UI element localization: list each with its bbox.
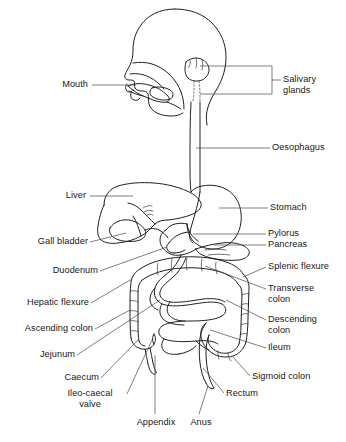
label-ileum: Ileum [268, 342, 328, 353]
head-profile-outline [125, 9, 226, 125]
label-rectum: Rectum [226, 388, 286, 399]
label-mouth: Mouth [4, 79, 88, 90]
label-jejunum: Jejunum [2, 349, 75, 360]
label-descending-colon: Descending colon [268, 314, 340, 335]
label-liver: Liver [4, 190, 86, 201]
gall-bladder-shape [109, 220, 168, 242]
label-gall-bladder: Gall bladder [2, 236, 88, 247]
label-anus: Anus [183, 417, 219, 428]
label-caecum: Caecum [2, 372, 99, 383]
transverse-colon-shape [140, 257, 243, 284]
rectum-anus-shape [199, 323, 214, 389]
label-sigmoid-colon: Sigmoid colon [252, 371, 340, 382]
liver-shape [98, 183, 202, 244]
label-transverse-colon: Transverse colon [268, 283, 340, 304]
digestive-system-diagram: Mouth Salivary glands Oesophagus Liver S… [0, 0, 346, 442]
label-pylorus: Pylorus [268, 228, 340, 239]
label-splenic-flexure: Splenic flexure [268, 261, 344, 272]
stomach-shape [187, 185, 241, 249]
label-salivary-glands: Salivary glands [283, 74, 345, 95]
label-oesophagus: Oesophagus [272, 142, 342, 153]
label-stomach: Stomach [270, 202, 342, 213]
label-duodenum: Duodenum [2, 265, 98, 276]
label-ileo-caecal-valve: Ileo-caecal valve [55, 388, 125, 409]
label-pancreas: Pancreas [268, 239, 340, 250]
salivary-gland-shapes [150, 58, 209, 101]
label-appendix: Appendix [125, 417, 187, 428]
label-ascending-colon: Ascending colon [2, 323, 93, 334]
leader-lines [77, 66, 281, 414]
label-hepatic-flexure: Hepatic flexure [2, 297, 89, 308]
oesophagus-shape [190, 102, 200, 192]
ascending-colon-shape [130, 269, 142, 341]
